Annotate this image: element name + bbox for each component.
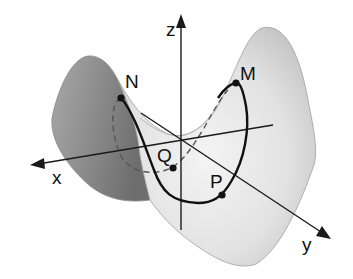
y-axis-arrow-icon: [316, 226, 331, 239]
point-P: [218, 191, 225, 198]
point-N-label: N: [125, 71, 139, 92]
diagram-canvas: z x y N M P Q: [0, 0, 353, 279]
point-Q-label: Q: [157, 145, 172, 166]
x-axis-label: x: [52, 167, 62, 188]
saddle-diagram: z x y N M P Q: [0, 0, 353, 279]
point-M-label: M: [240, 63, 256, 84]
surface-main: [118, 27, 316, 266]
point-P-label: P: [210, 171, 223, 192]
point-N: [117, 94, 124, 101]
z-axis-label: z: [166, 19, 176, 40]
y-axis-label: y: [302, 234, 312, 255]
point-M: [232, 79, 239, 86]
x-axis-arrow-icon: [30, 158, 45, 169]
z-axis-arrow-icon: [176, 14, 186, 28]
